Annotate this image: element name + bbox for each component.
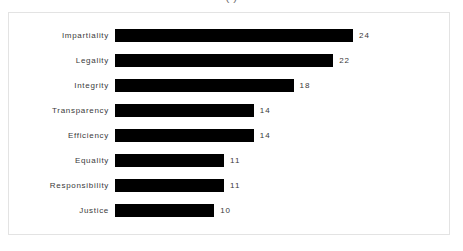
bar <box>115 154 224 167</box>
bar <box>115 29 353 42</box>
bar-category-label: Equality <box>9 148 109 173</box>
bar-track: 24 <box>115 23 451 48</box>
bar <box>115 54 333 67</box>
bar-track: 22 <box>115 48 451 73</box>
bar-category-label: Legality <box>9 48 109 73</box>
bar-category-label: Justice <box>9 198 109 223</box>
bar-category-label: Impartiality <box>9 23 109 48</box>
bar-row: Impartiality24 <box>9 23 451 48</box>
bar <box>115 179 224 192</box>
bar-track: 14 <box>115 123 451 148</box>
bar-row: Efficiency14 <box>9 123 451 148</box>
bar-category-label: Responsibility <box>9 173 109 198</box>
bar-category-label: Efficiency <box>9 123 109 148</box>
bar-row: Equality11 <box>9 148 451 173</box>
bar-row: Transparency14 <box>9 98 451 123</box>
bar-category-label: Integrity <box>9 73 109 98</box>
bar <box>115 79 294 92</box>
bar <box>115 104 254 117</box>
bar <box>115 204 214 217</box>
chart-title: ( ) <box>0 0 463 3</box>
chart-frame: Impartiality24Legality22Integrity18Trans… <box>8 12 450 235</box>
bar-value-label: 18 <box>300 73 311 98</box>
bar-track: 10 <box>115 198 451 223</box>
bar-value-label: 14 <box>260 98 271 123</box>
bar-track: 18 <box>115 73 451 98</box>
bar-value-label: 24 <box>359 23 370 48</box>
bar <box>115 129 254 142</box>
bar-value-label: 22 <box>339 48 350 73</box>
bar-category-label: Transparency <box>9 98 109 123</box>
bar-value-label: 11 <box>230 173 240 198</box>
chart-title-strip: ( ) <box>0 0 463 11</box>
bar-track: 11 <box>115 173 451 198</box>
bar-row: Justice10 <box>9 198 451 223</box>
bar-value-label: 11 <box>230 148 240 173</box>
bar-track: 14 <box>115 98 451 123</box>
bar-track: 11 <box>115 148 451 173</box>
bar-value-label: 10 <box>220 198 231 223</box>
bar-chart-plot-area: Impartiality24Legality22Integrity18Trans… <box>9 13 451 236</box>
bar-row: Integrity18 <box>9 73 451 98</box>
bar-row: Legality22 <box>9 48 451 73</box>
bar-value-label: 14 <box>260 123 271 148</box>
bar-row: Responsibility11 <box>9 173 451 198</box>
